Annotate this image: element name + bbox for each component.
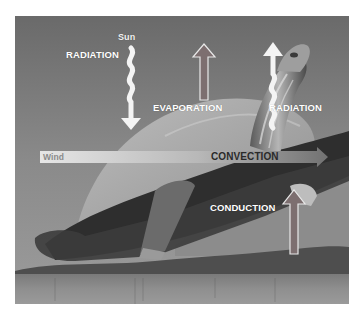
conduction-label: CONDUCTION [210,202,275,213]
convection-label: CONVECTION [211,151,279,162]
water [15,274,349,304]
turtle-heat-transfer-figure: Sun RADIATION EVAPORATION RADIATION Wind… [15,16,349,304]
radiation-in-label: RADIATION [66,49,119,60]
wind-label: Wind [43,152,64,162]
evaporation-label: EVAPORATION [153,102,222,113]
radiation-out-label: RADIATION [269,102,322,113]
turtle-eye [290,53,298,58]
sun-label: Sun [118,32,135,42]
